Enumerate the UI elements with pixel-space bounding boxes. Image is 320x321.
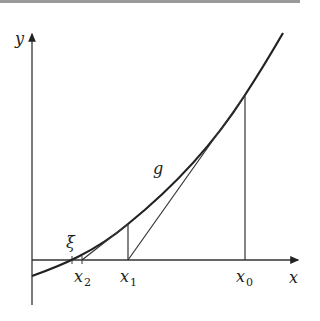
tangent-at-x1 [82, 224, 128, 260]
newton-method-diagram: y x g ξ x 0 x 1 x 2 [0, 0, 320, 321]
y-axis-label: y [14, 29, 25, 48]
x-axis-label: x [289, 268, 298, 287]
tangent-at-x0 [128, 95, 245, 260]
svg-text:x: x [120, 267, 129, 286]
svg-text:x: x [74, 267, 83, 286]
svg-text:0: 0 [246, 276, 253, 289]
svg-text:2: 2 [84, 276, 91, 289]
x0-label: x 0 [236, 267, 253, 289]
curve-g-label: g [153, 159, 163, 178]
x2-label: x 2 [74, 267, 91, 289]
svg-text:1: 1 [130, 276, 137, 289]
diagram-frame: y x g ξ x 0 x 1 x 2 [0, 0, 320, 321]
x1-label: x 1 [120, 267, 137, 289]
xi-label: ξ [66, 233, 76, 252]
svg-text:x: x [236, 267, 245, 286]
